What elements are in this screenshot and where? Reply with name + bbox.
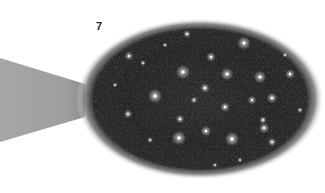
star xyxy=(205,130,208,133)
star xyxy=(193,99,195,101)
star xyxy=(262,119,264,121)
star xyxy=(271,97,274,100)
star xyxy=(177,136,181,140)
star xyxy=(258,75,261,78)
star xyxy=(230,137,234,141)
star xyxy=(164,44,166,46)
star xyxy=(114,84,116,86)
star xyxy=(186,33,188,35)
figure-number-label: 7 xyxy=(96,21,102,32)
star xyxy=(210,56,212,58)
star xyxy=(128,55,130,57)
star-field-figure: 7 xyxy=(0,0,325,193)
star xyxy=(204,87,206,89)
star xyxy=(127,113,129,115)
star xyxy=(251,99,253,101)
star xyxy=(142,62,144,64)
star xyxy=(224,106,226,108)
star xyxy=(179,118,181,120)
star-field-ellipse xyxy=(0,0,325,193)
star xyxy=(299,109,301,111)
star xyxy=(239,159,241,161)
star xyxy=(289,73,291,75)
star xyxy=(153,94,157,98)
star xyxy=(181,70,185,74)
star xyxy=(271,141,273,143)
star xyxy=(242,41,245,44)
star xyxy=(263,127,266,130)
star xyxy=(214,164,216,166)
star xyxy=(284,54,286,56)
star xyxy=(225,72,228,75)
star xyxy=(149,139,151,141)
